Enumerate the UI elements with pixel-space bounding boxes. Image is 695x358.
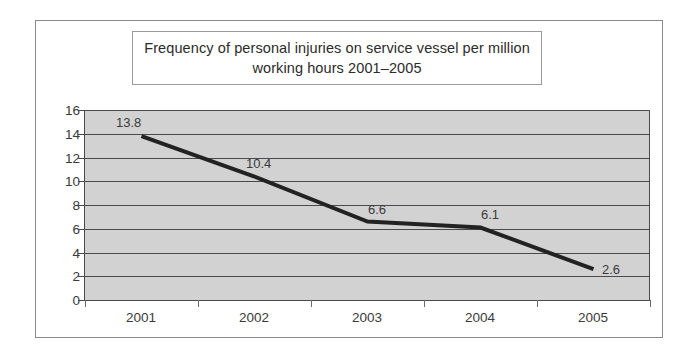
gridline xyxy=(85,110,650,111)
y-tick-mark xyxy=(78,134,84,135)
gridline xyxy=(85,134,650,135)
gridline xyxy=(85,158,650,159)
x-tick-mark xyxy=(424,300,425,307)
x-tick-mark xyxy=(537,300,538,307)
y-tick-mark xyxy=(78,300,84,301)
y-tick-mark xyxy=(78,253,84,254)
point-value-label: 10.4 xyxy=(246,156,271,171)
y-tick-mark xyxy=(78,205,84,206)
point-value-label: 6.1 xyxy=(481,207,499,222)
y-tick-label: 16 xyxy=(40,103,80,118)
y-tick-label: 6 xyxy=(40,221,80,236)
x-tick-label: 2001 xyxy=(126,310,156,325)
point-value-label: 13.8 xyxy=(116,115,141,130)
y-tick-label: 14 xyxy=(40,126,80,141)
x-tick-label: 2005 xyxy=(578,310,608,325)
point-value-label: 2.6 xyxy=(602,262,620,277)
chart-figure: Frequency of personal injuries on servic… xyxy=(0,0,695,358)
y-tick-mark xyxy=(78,158,84,159)
y-tick-label: 8 xyxy=(40,198,80,213)
x-tick-label: 2002 xyxy=(239,310,269,325)
x-tick-label: 2003 xyxy=(352,310,382,325)
gridline xyxy=(85,276,650,277)
y-tick-mark xyxy=(78,276,84,277)
gridline xyxy=(85,181,650,182)
y-tick-label: 4 xyxy=(40,245,80,260)
point-value-label: 6.6 xyxy=(368,202,386,217)
y-axis-line xyxy=(84,110,85,301)
chart-title-box: Frequency of personal injuries on servic… xyxy=(132,31,542,85)
y-tick-mark xyxy=(78,110,84,111)
y-tick-label: 2 xyxy=(40,269,80,284)
gridline xyxy=(85,229,650,230)
y-axis-labels: 16 14 12 10 8 6 4 2 0 xyxy=(38,0,80,358)
x-tick-mark xyxy=(650,300,651,307)
x-tick-label: 2004 xyxy=(465,310,495,325)
x-tick-mark xyxy=(311,300,312,307)
y-tick-mark xyxy=(78,229,84,230)
x-axis-line xyxy=(85,300,651,301)
plot-right-edge xyxy=(649,110,650,300)
y-tick-label: 0 xyxy=(40,293,80,308)
y-tick-label: 12 xyxy=(40,150,80,165)
x-tick-mark xyxy=(198,300,199,307)
y-tick-label: 10 xyxy=(40,174,80,189)
gridline xyxy=(85,253,650,254)
x-tick-mark xyxy=(85,300,86,307)
chart-title: Frequency of personal injuries on servic… xyxy=(133,38,541,78)
y-tick-mark xyxy=(78,181,84,182)
